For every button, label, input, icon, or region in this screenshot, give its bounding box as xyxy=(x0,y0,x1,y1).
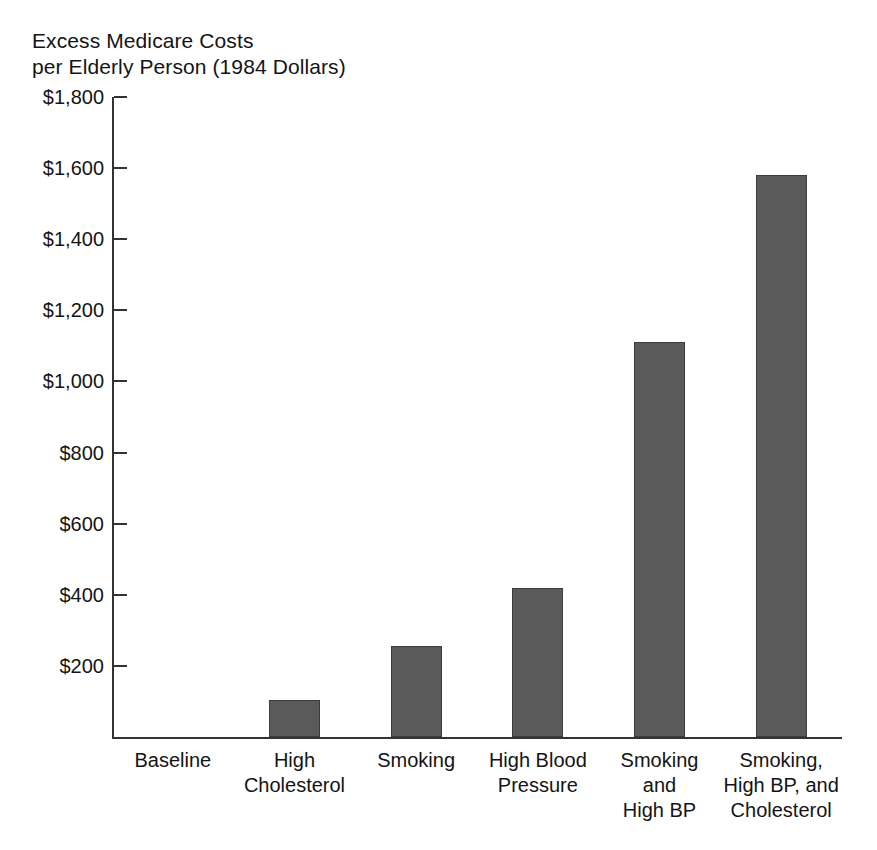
y-axis-tick xyxy=(114,594,127,596)
y-axis-tick xyxy=(114,452,127,454)
y-axis-tick-label: $800 xyxy=(0,443,104,463)
y-axis-tick-label-text: $1,800 xyxy=(0,87,104,107)
y-axis-tick-label-text: $400 xyxy=(0,585,104,605)
y-axis-tick-label: $200 xyxy=(0,656,104,676)
y-axis-tick xyxy=(114,96,127,98)
y-axis-tick-label: $1,600 xyxy=(0,158,104,178)
y-axis-tick-label-text: $1,400 xyxy=(0,229,104,249)
y-axis-line xyxy=(112,97,114,739)
y-axis-tick-label: $1,800 xyxy=(0,87,104,107)
x-axis-line xyxy=(112,737,842,739)
bar xyxy=(756,175,807,737)
y-axis-tick-label-text: $1,200 xyxy=(0,300,104,320)
y-axis-tick xyxy=(114,380,127,382)
x-axis-category-label: Smoking, High BP, and Cholesterol xyxy=(706,748,856,823)
y-axis-tick-label: $1,200 xyxy=(0,300,104,320)
bar xyxy=(391,646,442,737)
bar-chart-figure: Excess Medicare Costs per Elderly Person… xyxy=(0,0,877,850)
y-axis-tick-label: $600 xyxy=(0,514,104,534)
bar xyxy=(634,342,685,737)
y-axis-tick xyxy=(114,167,127,169)
y-axis-tick xyxy=(114,523,127,525)
plot-area: $1,800$1,600$1,400$1,200$1,000$800$600$4… xyxy=(0,0,877,850)
y-axis-tick-label: $1,400 xyxy=(0,229,104,249)
y-axis-tick-label-text: $600 xyxy=(0,514,104,534)
y-axis-tick-label: $400 xyxy=(0,585,104,605)
y-axis-tick-label-text: $200 xyxy=(0,656,104,676)
y-axis-tick-label: $1,000 xyxy=(0,371,104,391)
y-axis-tick xyxy=(114,238,127,240)
y-axis-tick-label-text: $1,600 xyxy=(0,158,104,178)
y-axis-tick-label-text: $1,000 xyxy=(0,371,104,391)
y-axis-tick xyxy=(114,309,127,311)
bar xyxy=(269,700,320,737)
y-axis-tick xyxy=(114,665,127,667)
y-axis-tick-label-text: $800 xyxy=(0,443,104,463)
bar xyxy=(512,588,563,737)
